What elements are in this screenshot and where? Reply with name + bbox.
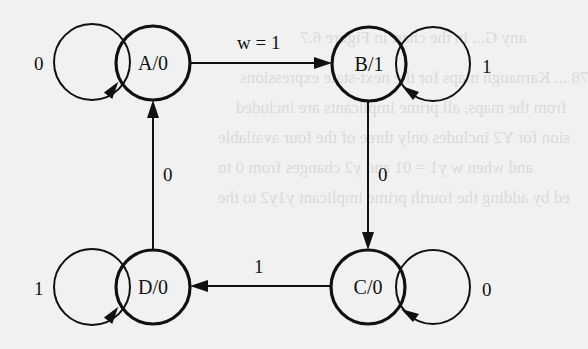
loop-d-label: 1	[34, 278, 44, 299]
loop-d-arc	[54, 249, 130, 325]
arrow-head-icon	[147, 100, 159, 118]
edge-a-to-b: w = 1	[190, 32, 332, 69]
loop-c-label: 0	[482, 279, 492, 300]
state-b: B/1	[332, 27, 406, 101]
state-d: D/0	[116, 250, 190, 324]
arrow-head-icon	[314, 57, 332, 69]
state-a: A/0	[116, 26, 190, 100]
edge-a-b-label: w = 1	[237, 32, 280, 53]
loop-b: 1	[396, 27, 492, 101]
state-d-label: D/0	[138, 276, 168, 298]
loop-b-label: 1	[482, 56, 492, 77]
edge-d-to-a: 0	[147, 100, 173, 250]
state-c: C/0	[331, 250, 405, 324]
state-b-label: B/1	[355, 53, 384, 75]
arrow-head-icon	[362, 232, 374, 250]
edge-b-c-label: 0	[378, 164, 388, 185]
edge-c-d-label: 1	[254, 256, 264, 277]
loop-a-arc	[54, 24, 130, 100]
loop-a-label: 0	[34, 53, 44, 74]
arrow-head-icon	[190, 280, 208, 292]
state-c-label: C/0	[354, 276, 383, 298]
state-a-label: A/0	[138, 52, 168, 74]
edge-b-to-c: 0	[362, 101, 388, 250]
loop-c: 0	[396, 250, 492, 324]
edge-d-a-label: 0	[163, 164, 173, 185]
edge-c-to-d: 1	[190, 256, 331, 292]
